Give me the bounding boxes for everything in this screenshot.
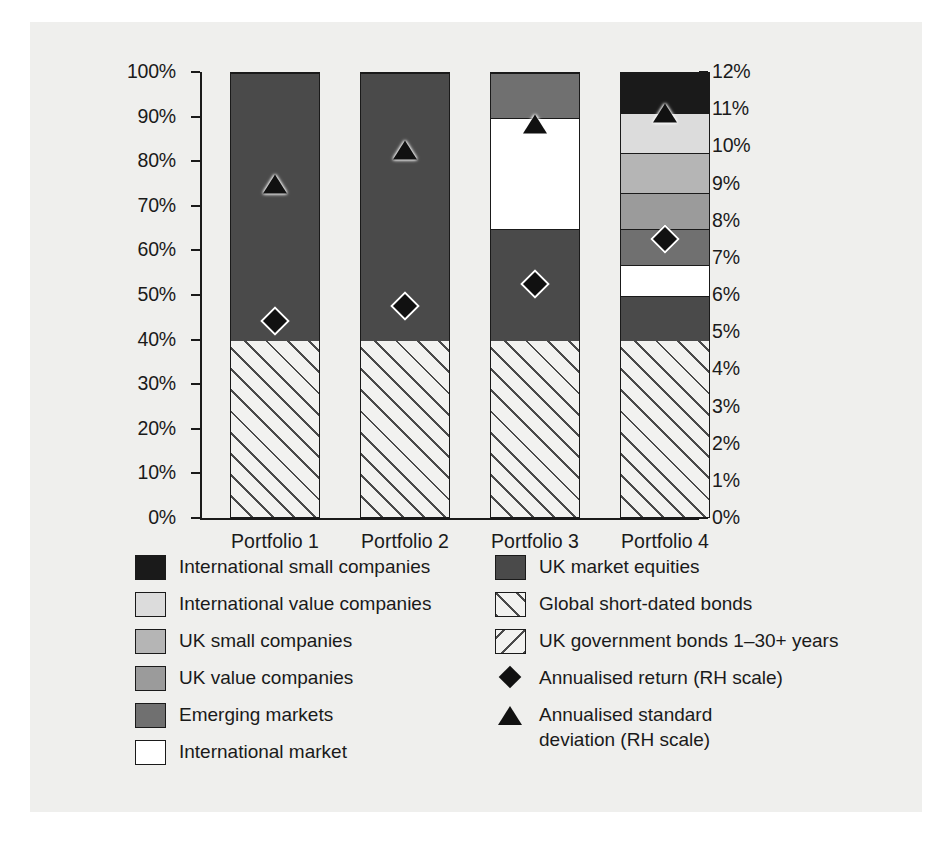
category-label-1: Portfolio 1 (205, 530, 345, 553)
right-axis-tick-label: 5% (712, 320, 740, 343)
left-axis-tick-label: 30% (138, 372, 176, 395)
legend-item[interactable]: International market (135, 739, 495, 765)
bar-segment-global_bonds (491, 341, 579, 518)
diamond-icon (495, 665, 526, 690)
left-axis-tick-label: 0% (148, 506, 176, 529)
left-axis-tick-label: 80% (138, 149, 176, 172)
marker-glyph (498, 706, 522, 725)
left-axis-line (200, 72, 202, 520)
left-axis-tick-label: 50% (138, 283, 176, 306)
left-axis-tick (191, 339, 200, 341)
category-label-3: Portfolio 3 (465, 530, 605, 553)
left-axis-tick-label: 20% (138, 417, 176, 440)
triangle-marker (263, 174, 287, 193)
left-axis-tick (191, 383, 200, 385)
legend-item[interactable]: Annualised standard deviation (RH scale) (495, 702, 915, 752)
right-axis-tick-label: 0% (712, 506, 740, 529)
left-axis-tick (191, 71, 200, 73)
legend-label: International small companies (179, 554, 430, 579)
uk-equities-swatch (495, 555, 526, 580)
legend-item[interactable]: Annualised return (RH scale) (495, 665, 915, 691)
right-axis-tick-label: 4% (712, 357, 740, 380)
left-axis-tick-label: 60% (138, 238, 176, 261)
intl-market-swatch (135, 740, 166, 765)
legend-label: UK market equities (539, 554, 700, 579)
bar-segment-uk_equities (621, 296, 709, 341)
bar-segment-global_bonds (621, 341, 709, 518)
left-axis-tick (191, 294, 200, 296)
global-bonds-swatch (495, 592, 526, 617)
stacked-bar (620, 72, 710, 518)
triangle-marker (523, 115, 547, 134)
triangle-icon (495, 702, 526, 727)
category-label-4: Portfolio 4 (595, 530, 735, 553)
triangle-marker (653, 103, 677, 122)
plot-area: 0%10%20%30%40%50%60%70%80%90%100% 0%1%2%… (200, 72, 680, 518)
legend-label: Emerging markets (179, 702, 333, 727)
bar-segment-uk_equities (231, 73, 319, 341)
right-axis-tick-label: 9% (712, 172, 740, 195)
emerging-swatch (135, 703, 166, 728)
legend-label: UK value companies (179, 665, 353, 690)
chart-legend: International small companiesInternation… (30, 554, 922, 804)
bar-segment-global_bonds (231, 341, 319, 518)
legend-label: UK small companies (179, 628, 352, 653)
legend-column-left: International small companiesInternation… (135, 554, 495, 776)
legend-item[interactable]: UK market equities (495, 554, 915, 580)
right-axis-tick-label: 3% (712, 395, 740, 418)
left-axis-tick (191, 160, 200, 162)
legend-column-right: UK market equitiesGlobal short-dated bon… (495, 554, 915, 763)
legend-label: Annualised return (RH scale) (539, 665, 783, 690)
bar-segment-uk_small (621, 153, 709, 193)
intl-small-swatch (135, 555, 166, 580)
bar-segment-global_bonds (361, 341, 449, 518)
legend-label: International market (179, 739, 347, 764)
right-axis-tick-label: 8% (712, 209, 740, 232)
right-axis-tick-label: 6% (712, 283, 740, 306)
stacked-bar (230, 72, 320, 518)
left-axis-tick-label: 40% (138, 328, 176, 351)
legend-label: Global short-dated bonds (539, 591, 752, 616)
category-label-2: Portfolio 2 (335, 530, 475, 553)
right-axis-tick-label: 2% (712, 432, 740, 455)
legend-item[interactable]: UK value companies (135, 665, 495, 691)
bar-segment-intl_market (621, 265, 709, 296)
chart-figure: 0%10%20%30%40%50%60%70%80%90%100% 0%1%2%… (30, 22, 922, 812)
right-axis-tick-label: 1% (712, 469, 740, 492)
left-axis-tick-label: 70% (138, 194, 176, 217)
legend-item[interactable]: UK small companies (135, 628, 495, 654)
bar-segment-emerging (491, 73, 579, 118)
left-axis-tick-label: 10% (138, 461, 176, 484)
bottom-axis-line (200, 518, 699, 520)
left-axis-tick (191, 428, 200, 430)
right-axis-tick-label: 11% (712, 97, 749, 120)
right-axis-tick-label: 7% (712, 246, 740, 269)
legend-label: Annualised standard deviation (RH scale) (539, 702, 712, 752)
legend-item[interactable]: Global short-dated bonds (495, 591, 915, 617)
legend-item[interactable]: International small companies (135, 554, 495, 580)
legend-label: UK government bonds 1–30+ years (539, 628, 838, 653)
gilts-swatch (495, 629, 526, 654)
right-axis-tick-label: 12% (712, 60, 750, 83)
left-axis-tick (191, 472, 200, 474)
intl-value-swatch (135, 592, 166, 617)
left-axis-tick-label: 90% (138, 105, 176, 128)
bar-segment-intl_market (491, 118, 579, 230)
right-axis-tick-label: 10% (712, 134, 750, 157)
left-axis-tick (191, 249, 200, 251)
left-axis-tick (191, 517, 200, 519)
left-axis-tick (191, 205, 200, 207)
uk-value-swatch (135, 666, 166, 691)
triangle-marker (393, 141, 417, 160)
left-axis-tick-label: 100% (127, 60, 176, 83)
legend-item[interactable]: Emerging markets (135, 702, 495, 728)
uk-small-swatch (135, 629, 166, 654)
legend-item[interactable]: International value companies (135, 591, 495, 617)
marker-glyph (499, 666, 522, 689)
legend-item[interactable]: UK government bonds 1–30+ years (495, 628, 915, 654)
left-axis-tick (191, 116, 200, 118)
legend-label: International value companies (179, 591, 431, 616)
